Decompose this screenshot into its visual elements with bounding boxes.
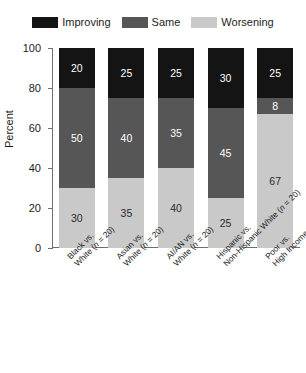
y-tick-label-40: 40 [29, 162, 41, 174]
bar-slot-2: 254035 [102, 48, 152, 248]
stacked-bar[interactable]: 253540 [158, 48, 194, 248]
bar-segment-improving[interactable]: 20 [59, 48, 95, 88]
stacked-bar-chart: Improving Same Worsening Percent 0204060… [0, 0, 306, 373]
y-tick-label-100: 100 [23, 42, 41, 54]
bar-slot-3: 253540 [151, 48, 201, 248]
bar-segment-improving[interactable]: 25 [158, 48, 194, 98]
bar-segment-same[interactable]: 8 [257, 98, 293, 114]
legend-label-worsening: Worsening [221, 17, 273, 28]
y-axis-title: Percent [3, 110, 15, 148]
bar-segment-improving[interactable]: 25 [257, 48, 293, 98]
legend-label-same: Same [152, 17, 181, 28]
chart-legend: Improving Same Worsening [0, 17, 306, 28]
legend-item-same: Same [122, 17, 181, 28]
stacked-bar[interactable]: 254035 [108, 48, 144, 248]
stacked-bar[interactable]: 205030 [59, 48, 95, 248]
y-tick-0: 0 [48, 248, 53, 249]
y-tick-label-20: 20 [29, 202, 41, 214]
legend-item-improving: Improving [32, 17, 110, 28]
x-axis-category-labels: Black vs.White (n = 20)Asian vs.White (n… [52, 250, 300, 370]
y-tick-label-60: 60 [29, 122, 41, 134]
bar-segment-same[interactable]: 50 [59, 88, 95, 188]
legend-label-improving: Improving [62, 17, 110, 28]
bar-segment-same[interactable]: 35 [158, 98, 194, 168]
bar-segment-same[interactable]: 45 [208, 108, 244, 198]
bar-segment-improving[interactable]: 25 [108, 48, 144, 98]
legend-swatch-same [122, 17, 148, 28]
bar-slot-1: 205030 [52, 48, 102, 248]
bar-segment-same[interactable]: 40 [108, 98, 144, 178]
legend-swatch-worsening [191, 17, 217, 28]
legend-swatch-improving [32, 17, 58, 28]
bar-segment-improving[interactable]: 30 [208, 48, 244, 108]
y-tick-label-80: 80 [29, 82, 41, 94]
stacked-bar[interactable]: 304525 [208, 48, 244, 248]
y-tick-label-0: 0 [35, 242, 41, 254]
bar-slot-4: 304525 [201, 48, 251, 248]
legend-item-worsening: Worsening [191, 17, 273, 28]
